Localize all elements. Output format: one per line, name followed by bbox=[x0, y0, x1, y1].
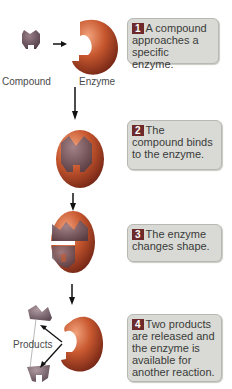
enzyme-released bbox=[61, 317, 103, 372]
step-1-box: 1A compound approaches a specific enzyme… bbox=[127, 18, 219, 64]
step-2-text: The compound binds to the enzyme. bbox=[132, 124, 213, 160]
compound-label: Compound bbox=[2, 76, 51, 87]
step-4-text: Two products are released and the enzyme… bbox=[132, 318, 215, 378]
enzyme-changed-shape bbox=[50, 211, 95, 273]
compound-shape bbox=[22, 30, 40, 49]
step-3-text: The enzyme changes shape. bbox=[132, 228, 210, 252]
step-4-box: 4Two products are released and the enzym… bbox=[127, 314, 222, 382]
product-top bbox=[28, 305, 52, 321]
products-label: Products bbox=[13, 339, 52, 350]
step-3-box: 3The enzyme changes shape. bbox=[127, 224, 222, 262]
step-2-badge: 2 bbox=[132, 125, 144, 136]
enzyme-label: Enzyme bbox=[79, 76, 115, 87]
product-bottom bbox=[27, 365, 50, 382]
enzyme-shape bbox=[72, 20, 118, 75]
step-3-badge: 3 bbox=[132, 229, 144, 240]
step-4-badge: 4 bbox=[132, 319, 144, 330]
enzyme-compound-complex bbox=[56, 130, 104, 188]
step-1-badge: 1 bbox=[132, 23, 144, 34]
step-2-box: 2The compound binds to the enzyme. bbox=[127, 120, 222, 170]
